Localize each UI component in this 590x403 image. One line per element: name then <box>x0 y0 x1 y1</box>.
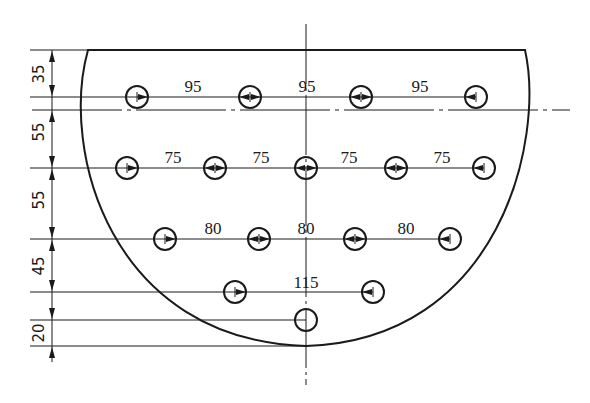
spacing-label: 95 <box>185 77 202 96</box>
spacing-label: 115 <box>294 273 319 292</box>
row-3-labels: 80 80 80 <box>205 219 415 238</box>
row-1-labels: 95 95 95 <box>185 77 429 96</box>
spacing-label: 75 <box>253 148 270 167</box>
spacing-label: 80 <box>398 219 415 238</box>
vertical-label-55: 55 <box>30 190 48 209</box>
vertical-label-20: 20 <box>30 323 48 342</box>
vertical-label-35: 35 <box>30 64 48 83</box>
spacing-label: 75 <box>341 148 358 167</box>
technical-drawing: 95 95 95 75 75 75 75 80 80 80 115 35 55 … <box>0 0 590 403</box>
spacing-label: 75 <box>434 148 451 167</box>
vertical-dimension-labels: 35 55 55 45 20 <box>30 64 48 342</box>
spacing-label: 80 <box>205 219 222 238</box>
spacing-label: 80 <box>298 219 315 238</box>
extension-lines <box>30 50 306 346</box>
row-4-labels: 115 <box>294 273 319 292</box>
vertical-label-45: 45 <box>30 256 48 275</box>
spacing-label: 95 <box>299 77 316 96</box>
vertical-label-55: 55 <box>30 122 48 141</box>
spacing-label: 95 <box>412 77 429 96</box>
spacing-label: 75 <box>165 148 182 167</box>
